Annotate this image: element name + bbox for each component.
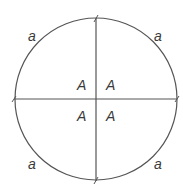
arc-label-bottom-right: a <box>154 156 162 172</box>
arc-label-bottom-left: a <box>28 156 36 172</box>
arc-label-top-right: a <box>154 28 162 44</box>
angle-label-bottom-right: A <box>105 108 115 124</box>
angle-label-top-left: A <box>76 77 86 93</box>
arc-label-top-left: a <box>28 28 36 44</box>
angle-label-top-right: A <box>105 77 115 93</box>
circle-diagram: a a a a A A A A <box>0 0 183 191</box>
angle-label-bottom-left: A <box>76 108 86 124</box>
